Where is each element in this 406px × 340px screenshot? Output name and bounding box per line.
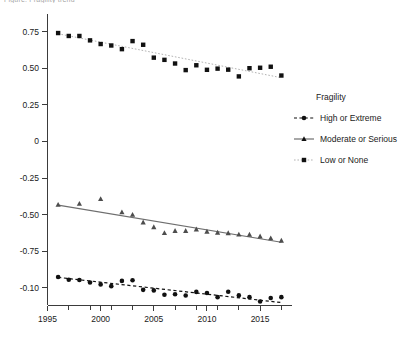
data-point <box>67 34 71 38</box>
data-point <box>151 224 156 229</box>
data-point <box>141 43 145 47</box>
data-point <box>130 39 134 43</box>
x-tick-label: 2005 <box>144 314 163 324</box>
legend-item-low-or-none[interactable]: Low or None <box>294 155 368 165</box>
data-point <box>77 34 81 38</box>
data-point <box>258 299 263 304</box>
data-point <box>56 202 61 207</box>
data-point <box>236 232 241 237</box>
data-point <box>237 74 241 78</box>
data-point <box>130 212 135 217</box>
y-tick-label: -0.25 <box>20 173 40 183</box>
data-point <box>119 209 124 214</box>
data-point <box>247 295 252 300</box>
data-point <box>88 280 93 285</box>
data-point <box>141 288 146 293</box>
y-tick-label: 0.50 <box>22 63 39 73</box>
data-point <box>98 42 102 46</box>
y-tick-label: 0.25 <box>22 100 39 110</box>
data-point <box>120 279 125 284</box>
chart-axes <box>48 14 293 306</box>
x-tick-label: 2000 <box>91 314 110 324</box>
data-point <box>98 196 103 201</box>
series-high-or-extreme <box>56 275 284 304</box>
chart-legend: FragilityHigh or ExtremeModerate or Seri… <box>294 92 397 165</box>
data-point <box>98 282 103 287</box>
data-point <box>258 234 263 239</box>
legend-title: Fragility <box>316 92 347 102</box>
data-point <box>77 201 82 206</box>
data-point <box>247 232 252 237</box>
series-moderate-or-serious <box>56 196 284 243</box>
data-point <box>162 293 167 298</box>
data-point <box>194 63 198 67</box>
x-axis-ticks: 19952000200520102015 <box>38 306 281 325</box>
legend-item-moderate-or-serious[interactable]: Moderate or Serious <box>294 134 397 144</box>
data-point <box>258 66 262 70</box>
data-point <box>269 65 273 69</box>
data-point <box>152 288 157 293</box>
data-point <box>279 238 284 243</box>
data-point <box>120 47 124 51</box>
data-point <box>247 66 251 70</box>
chart-figure: Figure: Fragility trend 0.750.500.250-0.… <box>0 0 406 340</box>
data-point <box>205 291 210 296</box>
y-axis-ticks: 0.750.500.250-0.25-0.50-0.75-0.10 <box>20 27 48 293</box>
legend-item-high-or-extreme[interactable]: High or Extreme <box>294 113 382 123</box>
data-point <box>173 61 177 65</box>
data-point <box>205 68 209 72</box>
y-tick-label: -0.75 <box>20 246 40 256</box>
data-point <box>268 296 273 301</box>
y-tick-label: 0 <box>34 136 39 146</box>
legend-item-label: Moderate or Serious <box>320 134 397 144</box>
data-point <box>56 31 60 35</box>
series-low-or-none <box>56 31 284 79</box>
data-point <box>130 278 135 283</box>
data-point <box>183 68 187 72</box>
data-point <box>183 228 188 233</box>
data-point <box>268 235 273 240</box>
legend-marker-circle-icon <box>302 116 307 121</box>
data-point <box>279 73 283 77</box>
data-point <box>162 58 166 62</box>
x-tick-label: 1995 <box>38 314 57 324</box>
data-point <box>279 295 284 300</box>
data-point <box>172 228 177 233</box>
data-point <box>215 66 219 70</box>
legend-item-label: High or Extreme <box>320 113 382 123</box>
fragility-scatter-chart: 0.750.500.250-0.25-0.50-0.75-0.10 199520… <box>0 0 406 340</box>
y-tick-label: -0.10 <box>20 283 40 293</box>
data-point <box>77 278 82 283</box>
y-tick-label: -0.50 <box>20 210 40 220</box>
figure-title: Figure: Fragility trend <box>4 0 75 3</box>
legend-item-label: Low or None <box>320 155 368 165</box>
x-tick-label: 2010 <box>197 314 216 324</box>
data-point <box>152 55 156 59</box>
data-point <box>88 38 92 42</box>
legend-marker-square-icon <box>302 158 306 162</box>
data-point <box>226 67 230 71</box>
data-point <box>215 295 220 300</box>
data-point <box>109 43 113 47</box>
data-point <box>194 290 199 295</box>
data-point <box>226 289 231 294</box>
data-point <box>66 277 71 282</box>
data-point <box>56 275 61 280</box>
data-point <box>173 292 178 297</box>
data-point <box>141 219 146 224</box>
data-point <box>162 230 167 235</box>
data-point <box>183 293 188 298</box>
chart-series <box>56 31 284 304</box>
x-tick-label: 2015 <box>251 314 270 324</box>
data-point <box>237 293 242 298</box>
data-point <box>109 284 114 289</box>
y-tick-label: 0.75 <box>22 27 39 37</box>
